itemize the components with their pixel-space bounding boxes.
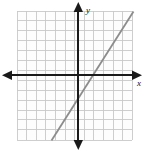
x-axis-left-arrowhead xyxy=(2,70,12,80)
graph-screenshot: y x xyxy=(0,0,147,152)
y-axis-bottom-arrowhead xyxy=(74,140,83,150)
y-axis-label: y xyxy=(85,5,90,15)
coordinate-plane-chart: y x xyxy=(0,0,147,152)
x-axis-label: x xyxy=(136,78,141,88)
y-axis-top-arrowhead xyxy=(74,2,83,12)
